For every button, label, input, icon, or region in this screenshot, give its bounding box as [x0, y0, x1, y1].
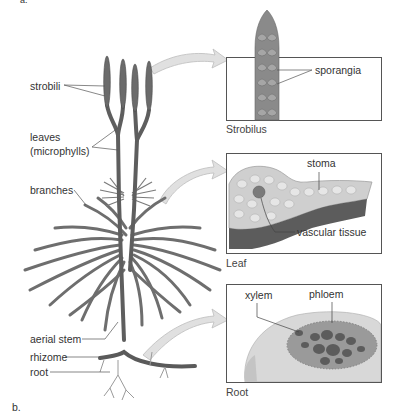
caption-leaf: Leaf [226, 257, 246, 269]
leaf-panel: stoma vascular tissue [226, 153, 382, 254]
label-vascular-tissue: vascular tissue [297, 226, 366, 238]
arrow-to-root [143, 309, 228, 360]
upper-whorl [100, 178, 156, 206]
arrow-to-leaf [160, 160, 228, 204]
strobilus-panel: sporangia [226, 57, 382, 121]
strobili-cones [104, 56, 153, 112]
label-microphylls: (microphylls) [30, 145, 90, 157]
arrow-to-strobilus [150, 49, 228, 74]
label-branches: branches [30, 184, 73, 196]
label-strobili: strobili [30, 80, 60, 92]
caption-strobilus: Strobilus [226, 123, 267, 135]
label-xylem: xylem [245, 289, 272, 301]
label-leaves: leaves [30, 131, 60, 143]
label-sporangia: sporangia [315, 64, 361, 76]
label-part-a: a. [20, 0, 28, 6]
label-phloem: phloem [309, 288, 343, 300]
label-root: root [30, 366, 48, 378]
root-panel: xylem phloem [226, 284, 382, 383]
leaf-cross-section [227, 154, 381, 253]
caption-root: Root [226, 386, 248, 398]
label-stoma: stoma [307, 157, 336, 169]
label-aerial-stem: aerial stem [30, 333, 81, 345]
label-rhizome: rhizome [30, 351, 67, 363]
label-part-b: b. [12, 401, 21, 413]
